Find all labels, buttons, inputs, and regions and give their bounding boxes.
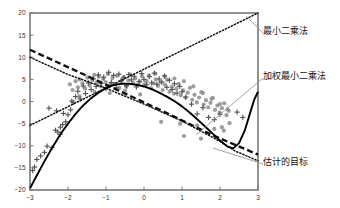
data-point-inlier	[202, 102, 206, 106]
data-point-inlier	[197, 95, 201, 99]
data-point-inlier	[174, 87, 178, 91]
y-tick-label: −20	[14, 186, 25, 193]
data-point-outlier	[240, 115, 245, 120]
data-point-inlier	[182, 79, 186, 83]
fitted-curves-group	[30, 13, 258, 188]
data-point-inlier	[80, 81, 84, 85]
data-point-inlier	[210, 97, 214, 101]
data-point-outlier	[45, 144, 50, 149]
annotation-least-squares: 最小二乘法	[263, 27, 308, 36]
data-point-inlier	[222, 129, 226, 133]
y-tick-label: −5	[18, 120, 26, 127]
x-tick-label: 0	[142, 194, 146, 201]
data-point-outlier	[65, 112, 70, 117]
data-point-inlier	[220, 106, 224, 110]
data-point-inlier	[70, 88, 74, 92]
data-point-inlier	[178, 122, 182, 126]
data-point-inlier	[161, 88, 165, 92]
x-tick-label: −3	[26, 194, 34, 201]
y-tick-label: 20	[18, 9, 26, 16]
y-tick-label: 10	[18, 54, 26, 61]
data-point-outlier	[75, 89, 80, 94]
data-point-inlier	[74, 79, 78, 83]
data-point-outlier	[68, 107, 73, 112]
data-point-inlier	[191, 84, 195, 88]
data-point-inlier	[92, 73, 96, 77]
data-point-outlier	[189, 102, 194, 107]
data-point-inlier	[213, 108, 217, 112]
data-point-outlier	[73, 94, 78, 99]
y-tick-label: 0	[22, 98, 26, 105]
data-point-inlier	[218, 102, 222, 106]
data-point-inlier	[199, 137, 203, 141]
data-point-inlier	[138, 92, 142, 96]
data-point-outlier	[38, 153, 43, 158]
data-point-inlier	[159, 120, 163, 124]
x-tick-label: 1	[180, 194, 184, 201]
annotation-weighted-least-squares: 加权最小二乘法	[263, 72, 326, 81]
leader-line	[213, 148, 263, 164]
data-point-outlier	[83, 91, 88, 96]
x-tick-label: −1	[102, 194, 110, 201]
y-tick-label: 5	[22, 76, 26, 83]
data-point-inlier	[227, 121, 231, 125]
annotation-estimated-target: 估计的目标	[263, 158, 308, 167]
y-tick-label: −10	[14, 142, 25, 149]
data-point-inlier	[68, 82, 72, 86]
data-point-inlier	[208, 101, 212, 105]
y-tick-label: −15	[14, 164, 25, 171]
data-point-inlier	[195, 100, 199, 104]
data-point-outlier	[34, 157, 39, 162]
data-point-outlier	[206, 115, 211, 120]
data-point-inlier	[190, 98, 194, 102]
x-axis-ticks: −3−2−10123	[26, 187, 260, 201]
data-point-outlier	[61, 111, 66, 116]
data-point-inlier	[204, 98, 208, 102]
curve-weighted-least-squares-curve	[30, 84, 258, 188]
data-point-outlier	[195, 111, 200, 116]
data-point-outlier	[235, 110, 240, 115]
data-point-inlier	[172, 76, 176, 80]
data-point-inlier	[224, 113, 228, 117]
data-point-inlier	[167, 90, 171, 94]
leader-line	[246, 16, 263, 33]
y-tick-label: 15	[18, 32, 26, 39]
data-point-inlier	[212, 127, 216, 131]
x-tick-label: 3	[256, 194, 260, 201]
data-point-inlier	[201, 91, 205, 95]
data-point-inlier	[186, 91, 190, 95]
data-point-inlier	[182, 134, 186, 138]
data-point-outlier	[42, 150, 47, 155]
data-point-inlier	[222, 101, 226, 105]
data-point-inlier	[108, 91, 112, 95]
x-tick-label: 2	[218, 194, 222, 201]
data-point-outlier	[46, 106, 51, 111]
data-point-inlier	[206, 105, 210, 109]
x-tick-label: −2	[64, 194, 72, 201]
data-point-inlier	[192, 93, 196, 97]
chart-root: −3−2−10123 −20−15−10−505101520 最小二乘法 加权最…	[0, 0, 340, 208]
data-point-inlier	[220, 125, 224, 129]
